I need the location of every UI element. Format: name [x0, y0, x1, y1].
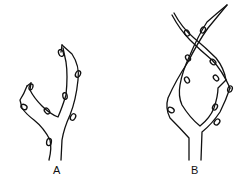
twig-a-drawing [20, 45, 82, 160]
panel-label-a: A [53, 164, 60, 176]
panel-label-b: B [191, 164, 198, 176]
twig-b-drawing [167, 5, 233, 160]
diagram-canvas [0, 0, 243, 185]
